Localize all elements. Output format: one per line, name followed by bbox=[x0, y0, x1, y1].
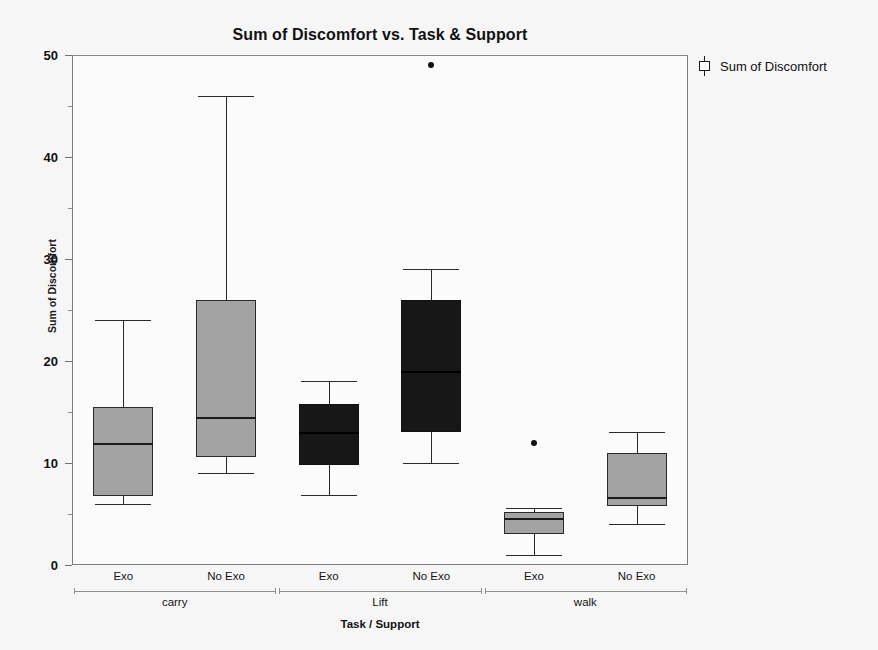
y-tick-label: 0 bbox=[18, 558, 58, 573]
box-iqr bbox=[93, 407, 153, 496]
boxplot-5[interactable] bbox=[504, 55, 564, 565]
y-tick-label: 30 bbox=[18, 252, 58, 267]
boxplot-4[interactable] bbox=[401, 55, 461, 565]
outlier-point bbox=[531, 440, 537, 446]
y-tick-major bbox=[65, 157, 72, 158]
whisker-cap-upper bbox=[301, 381, 357, 382]
y-tick-major bbox=[65, 361, 72, 362]
x-group-tick bbox=[485, 588, 486, 594]
whisker-cap-upper bbox=[95, 320, 151, 321]
y-tick-major bbox=[65, 463, 72, 464]
whisker-upper bbox=[226, 96, 227, 300]
boxplot-1[interactable] bbox=[93, 55, 153, 565]
x-group-label: Lift bbox=[372, 596, 387, 608]
outlier-point bbox=[428, 62, 434, 68]
median-line bbox=[504, 518, 564, 520]
whisker-lower bbox=[123, 496, 124, 504]
box-iqr bbox=[299, 404, 359, 465]
whisker-lower bbox=[637, 506, 638, 524]
whisker-cap-upper bbox=[198, 96, 254, 97]
whisker-cap-lower bbox=[403, 463, 459, 464]
x-sub-label: No Exo bbox=[618, 570, 656, 582]
whisker-cap-upper bbox=[403, 269, 459, 270]
boxplot-chart: Sum of Discomfort vs. Task & Support Sum… bbox=[0, 0, 878, 650]
boxplot-6[interactable] bbox=[607, 55, 667, 565]
boxplot-2[interactable] bbox=[196, 55, 256, 565]
median-line bbox=[299, 432, 359, 434]
x-group-rule bbox=[485, 591, 686, 592]
y-tick-minor bbox=[68, 106, 72, 107]
y-tick-minor bbox=[68, 514, 72, 515]
box-iqr bbox=[504, 512, 564, 534]
median-line bbox=[196, 417, 256, 419]
boxplot-glyph-icon bbox=[698, 56, 711, 76]
x-group-rule bbox=[279, 591, 480, 592]
y-tick-minor bbox=[68, 310, 72, 311]
x-sub-label: Exo bbox=[113, 570, 133, 582]
whisker-upper bbox=[123, 320, 124, 407]
whisker-cap-lower bbox=[609, 524, 665, 525]
plot-area bbox=[72, 55, 688, 565]
whisker-lower bbox=[534, 534, 535, 554]
x-group-tick bbox=[275, 588, 276, 594]
whisker-cap-lower bbox=[95, 504, 151, 505]
y-tick-major bbox=[65, 565, 72, 566]
x-axis: Task / Support ExoNo ExoExoNo ExoExoNo E… bbox=[72, 566, 688, 650]
x-group-tick bbox=[686, 588, 687, 594]
whisker-cap-lower bbox=[198, 473, 254, 474]
y-tick-label: 50 bbox=[18, 48, 58, 63]
x-sub-label: Exo bbox=[524, 570, 544, 582]
whisker-upper bbox=[637, 432, 638, 452]
x-group-label: carry bbox=[162, 596, 188, 608]
whisker-cap-lower bbox=[301, 495, 357, 496]
y-tick-minor bbox=[68, 412, 72, 413]
whisker-cap-upper bbox=[609, 432, 665, 433]
whisker-upper bbox=[329, 381, 330, 403]
median-line bbox=[93, 443, 153, 445]
legend: Sum of Discomfort bbox=[698, 56, 827, 76]
whisker-lower bbox=[431, 432, 432, 463]
y-tick-label: 10 bbox=[18, 456, 58, 471]
whisker-lower bbox=[226, 457, 227, 473]
whisker-cap-lower bbox=[506, 555, 562, 556]
x-group-tick bbox=[279, 588, 280, 594]
whisker-cap-upper bbox=[506, 508, 562, 509]
x-axis-title: Task / Support bbox=[72, 618, 688, 630]
box-iqr bbox=[196, 300, 256, 457]
chart-title: Sum of Discomfort vs. Task & Support bbox=[72, 26, 688, 44]
x-sub-label: No Exo bbox=[207, 570, 245, 582]
whisker-upper bbox=[431, 269, 432, 300]
y-tick-major bbox=[65, 259, 72, 260]
y-tick-minor bbox=[68, 208, 72, 209]
x-group-label: walk bbox=[574, 596, 597, 608]
boxplot-3[interactable] bbox=[299, 55, 359, 565]
x-group-tick bbox=[74, 588, 75, 594]
legend-item-label: Sum of Discomfort bbox=[720, 59, 827, 74]
y-tick-label: 40 bbox=[18, 150, 58, 165]
x-sub-label: Exo bbox=[319, 570, 339, 582]
x-sub-label: No Exo bbox=[412, 570, 450, 582]
whisker-lower bbox=[329, 465, 330, 495]
x-group-rule bbox=[74, 591, 275, 592]
y-tick-major bbox=[65, 55, 72, 56]
box-iqr bbox=[401, 300, 461, 433]
median-line bbox=[607, 497, 667, 499]
x-group-tick bbox=[481, 588, 482, 594]
y-axis-title: Sum of Discomfort bbox=[46, 196, 58, 376]
median-line bbox=[401, 371, 461, 373]
y-tick-label: 20 bbox=[18, 354, 58, 369]
